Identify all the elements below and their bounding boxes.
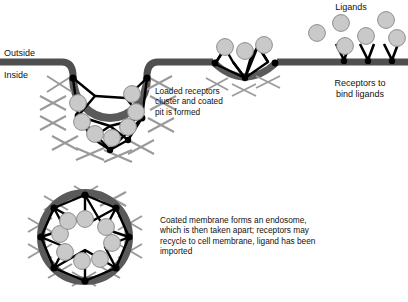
- receptor-fork: [360, 44, 374, 60]
- membrane-mid-segment: [147, 62, 213, 82]
- ligand-circle: [104, 130, 121, 147]
- ligand-circle: [333, 15, 350, 32]
- ligand-circle: [237, 43, 254, 60]
- caption-coated-pit: Loaded receptors cluster and coated pit …: [155, 86, 275, 117]
- ligand-circle: [256, 37, 273, 54]
- endocytosis-diagram: Outside Inside Ligands Receptors to bind…: [0, 0, 408, 302]
- ligand-circle: [92, 251, 109, 268]
- label-receptors-to-bind-ligands: Receptors to bind ligands: [316, 78, 404, 100]
- caption-endosome: Coated membrane forms an endosome, which…: [160, 215, 400, 257]
- ligand-circle: [124, 86, 141, 103]
- ligand-circle: [60, 213, 77, 230]
- ligand-circle: [389, 30, 406, 47]
- ligand-circle: [120, 119, 137, 136]
- ligand-circle: [309, 25, 326, 42]
- ligand-circle: [74, 114, 91, 131]
- ligand-circle: [337, 38, 354, 55]
- ligand-circle: [77, 211, 94, 228]
- label-inside: Inside: [4, 70, 28, 81]
- endosome-ligands: [52, 211, 121, 270]
- ligand-circle: [378, 12, 395, 29]
- ligand-circle: [87, 126, 104, 143]
- diagram-canvas: [0, 0, 408, 302]
- label-outside: Outside: [4, 48, 35, 59]
- label-ligands: Ligands: [312, 2, 390, 13]
- free-ligands: [309, 12, 406, 55]
- ligand-circle: [358, 28, 375, 45]
- ligand-circle: [70, 95, 87, 112]
- ligand-circle: [57, 244, 74, 261]
- ligand-circle: [128, 104, 145, 121]
- ligand-circle: [217, 39, 234, 56]
- ligand-circle: [74, 253, 91, 270]
- ligand-circle: [98, 219, 115, 236]
- ligand-circle: [104, 235, 121, 252]
